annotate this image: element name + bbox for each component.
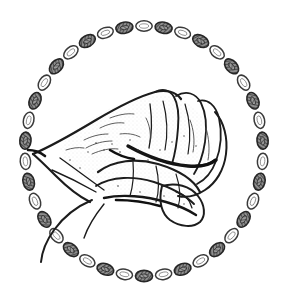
fist-and-chain-emblem bbox=[0, 0, 287, 296]
chain-link-dark bbox=[135, 270, 152, 281]
chain-link-light bbox=[136, 21, 152, 31]
chain-link-dark bbox=[256, 132, 269, 150]
chain-link-light bbox=[20, 153, 32, 170]
emblem-canvas: Clenched fist encircled by a chain Black… bbox=[0, 0, 287, 296]
chain-link-dark bbox=[19, 132, 32, 150]
chain-link-light bbox=[257, 153, 269, 170]
